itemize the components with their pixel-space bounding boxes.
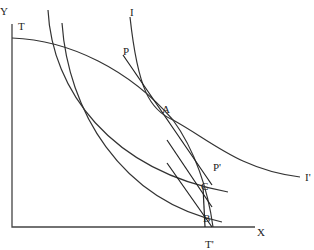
- point-a-label: A: [162, 103, 170, 115]
- t-label: T: [18, 20, 25, 32]
- transformation-curve: [12, 38, 213, 227]
- y-axis-label: Y: [0, 5, 8, 17]
- price-line: [123, 55, 212, 185]
- point-b-label: B: [203, 212, 210, 224]
- axes: [12, 24, 255, 227]
- x-axis-label: X: [257, 226, 265, 238]
- t-prime-label: T': [205, 238, 214, 250]
- indifference-curve-b: [62, 23, 222, 222]
- trade-diagram: Y T I P A P' I' C B X T': [0, 0, 314, 250]
- p-prime-label: P': [213, 161, 221, 173]
- indifference-curve-i: [130, 17, 300, 177]
- i-prime-label: I': [305, 171, 311, 183]
- indifference-curve-c: [48, 10, 228, 192]
- point-c-label: C: [201, 180, 208, 192]
- i-label: I: [130, 6, 134, 18]
- p-label: P: [123, 45, 129, 57]
